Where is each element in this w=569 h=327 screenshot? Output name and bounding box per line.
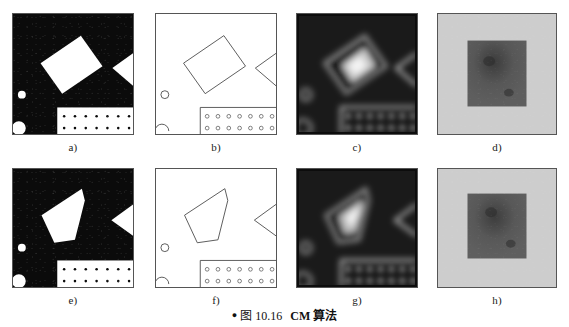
panel-label-h: h) xyxy=(437,294,557,306)
panel-label-e: e) xyxy=(12,294,134,306)
caption-title: CM 算法 xyxy=(290,309,337,323)
panel-f-image xyxy=(155,168,277,288)
panel-label-d: d) xyxy=(437,141,557,153)
panel-h-image xyxy=(437,168,557,288)
panel-b-image xyxy=(155,13,277,135)
figure-caption: ●图 10.16CM 算法 xyxy=(0,306,569,324)
panel-a-image xyxy=(12,13,134,135)
caption-bullet-icon: ● xyxy=(232,310,237,320)
figure-container: a) b) xyxy=(0,0,569,327)
panel-c-image xyxy=(296,13,418,135)
caption-figure-number: 图 10.16 xyxy=(240,309,282,323)
panel-label-g: g) xyxy=(296,294,418,306)
panel-e-image xyxy=(12,168,134,288)
panel-label-c: c) xyxy=(296,141,418,153)
panel-label-a: a) xyxy=(12,141,134,153)
panel-g-image xyxy=(296,168,418,288)
panel-d-image xyxy=(437,13,557,135)
panel-label-b: b) xyxy=(155,141,277,153)
panel-label-f: f) xyxy=(155,294,277,306)
